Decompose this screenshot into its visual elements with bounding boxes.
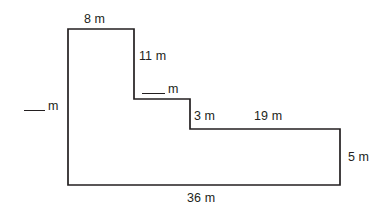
figure-canvas: 8 m m 11 m m 3 m 19 m 5 m 36 m <box>0 0 389 216</box>
dimension-label-bottom: 36 m <box>187 192 215 205</box>
unit-label-left: m <box>48 100 58 113</box>
dimension-label-right-side: 5 m <box>348 151 369 164</box>
polygon-outline <box>68 29 340 185</box>
blank-rule-icon <box>24 110 45 111</box>
dimension-label-first-drop: 11 m <box>139 50 166 63</box>
dimension-label-middle-step-unknown: m <box>142 83 178 96</box>
unit-label-middle: m <box>168 83 178 96</box>
dimension-label-lower-horizontal: 19 m <box>254 110 282 123</box>
dimension-label-top: 8 m <box>84 13 105 26</box>
blank-rule-icon <box>142 93 165 94</box>
dimension-label-left-unknown: m <box>24 100 58 113</box>
dimension-label-second-drop: 3 m <box>194 110 215 123</box>
